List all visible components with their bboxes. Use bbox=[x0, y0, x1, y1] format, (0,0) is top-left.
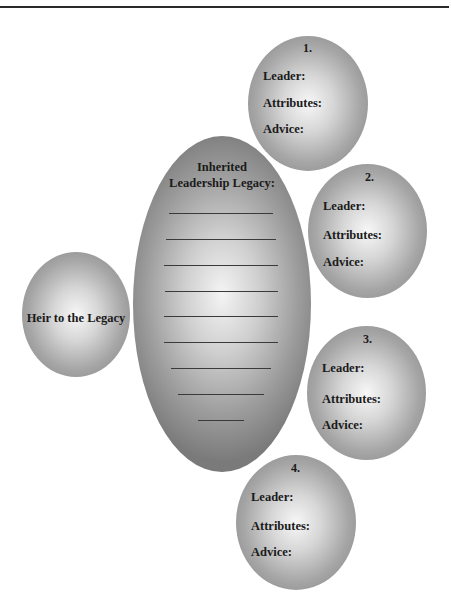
heir-label: Heir to the Legacy bbox=[22, 312, 130, 325]
legacy-blank-line-1[interactable] bbox=[169, 213, 273, 214]
legacy-blank-line-5[interactable] bbox=[164, 316, 278, 317]
leader-2-attributes-label: Attributes: bbox=[323, 229, 382, 242]
legacy-blank-line-2[interactable] bbox=[166, 239, 276, 240]
legacy-title-line2: Leadership Legacy: bbox=[133, 175, 311, 191]
legacy-blank-line-3[interactable] bbox=[164, 265, 278, 266]
legacy-blank-line-8[interactable] bbox=[178, 394, 264, 395]
leader-4-leader-label: Leader: bbox=[251, 491, 293, 504]
leader-3-leader-label: Leader: bbox=[322, 362, 364, 375]
legacy-blank-line-4[interactable] bbox=[165, 291, 278, 292]
leader-1-attributes-label: Attributes: bbox=[263, 97, 322, 110]
leader-number-1: 1. bbox=[303, 42, 312, 54]
leader-number-3: 3. bbox=[363, 333, 372, 345]
top-rule bbox=[0, 6, 449, 8]
leader-3-attributes-label: Attributes: bbox=[322, 393, 381, 406]
leader-number-4: 4. bbox=[291, 462, 300, 474]
leader-number-2: 2. bbox=[365, 171, 374, 183]
legacy-blank-line-9[interactable] bbox=[198, 420, 244, 421]
leader-1-leader-label: Leader: bbox=[263, 70, 305, 83]
legacy-blank-line-7[interactable] bbox=[171, 368, 271, 369]
leader-4-advice-label: Advice: bbox=[251, 546, 292, 559]
leader-4-attributes-label: Attributes: bbox=[251, 520, 310, 533]
leader-1-advice-label: Advice: bbox=[263, 123, 304, 136]
legacy-blank-line-6[interactable] bbox=[164, 342, 278, 343]
leader-2-advice-label: Advice: bbox=[323, 256, 364, 269]
leader-2-leader-label: Leader: bbox=[323, 200, 365, 213]
leader-3-advice-label: Advice: bbox=[322, 419, 363, 432]
